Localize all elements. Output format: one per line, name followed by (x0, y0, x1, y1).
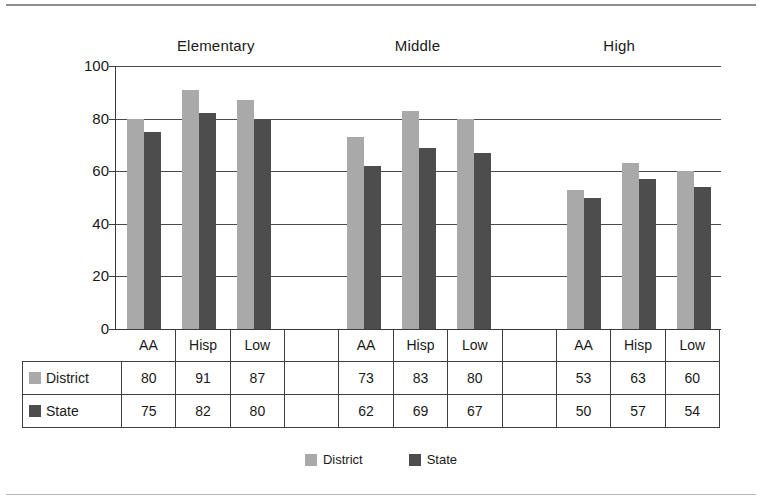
table-header-row: AAHispLowAAHispLowAAHispLow (23, 329, 720, 362)
table-cell-value: 73 (339, 362, 393, 395)
bar-pair (336, 66, 391, 329)
state-swatch (29, 405, 41, 417)
table-row-label-text: State (46, 403, 79, 419)
data-table: AAHispLowAAHispLowAAHispLowDistrict80918… (22, 329, 720, 428)
table-row: District809187738380536360 (23, 362, 720, 395)
district-swatch (29, 372, 41, 384)
bar-state (144, 132, 161, 329)
bar-slot-aa (556, 66, 611, 329)
table-header-spacer-4 (285, 329, 339, 362)
bar-district (182, 90, 199, 329)
bar-slot-spacer (281, 66, 336, 329)
bar-slot-low (226, 66, 281, 329)
table-header-hisp-2: Hisp (176, 329, 230, 362)
table-header-aa-5: AA (339, 329, 393, 362)
bar-slot-hisp (611, 66, 666, 329)
plot-area (115, 66, 720, 329)
y-tick-80: 80 (61, 110, 109, 127)
bar-district (402, 111, 419, 329)
table-header-low-3: Low (230, 329, 284, 362)
table-row-label-state: State (23, 395, 122, 428)
y-tick-mark-80 (109, 119, 116, 120)
table-cell-value: 82 (176, 395, 230, 428)
bar-slot-aa (336, 66, 391, 329)
bar-state (419, 148, 436, 329)
table-cell-value: 80 (122, 362, 176, 395)
table-cell-spacer (502, 362, 556, 395)
table-cell-spacer (285, 395, 339, 428)
table-header-low-11: Low (665, 329, 719, 362)
table-cell-value: 50 (556, 395, 610, 428)
table-row-label-text: District (46, 370, 89, 386)
bar-slot-spacer (501, 66, 556, 329)
legend-item-district: District (305, 452, 363, 467)
bar-pair (391, 66, 446, 329)
table-cell-value: 67 (448, 395, 502, 428)
bar-state (199, 113, 216, 329)
bar-pair (116, 66, 171, 329)
y-tick-20: 20 (61, 267, 109, 284)
legend-label: District (323, 452, 363, 467)
bar-slot-hisp (391, 66, 446, 329)
table-cell-value: 91 (176, 362, 230, 395)
legend-swatch-state (409, 454, 421, 466)
group-header-middle: Middle (317, 34, 519, 58)
table-cell-value: 53 (556, 362, 610, 395)
bar-district (457, 119, 474, 329)
y-tick-100: 100 (61, 57, 109, 74)
table-header-hisp-6: Hisp (393, 329, 447, 362)
group-header-high: High (518, 34, 720, 58)
table-cell-value: 54 (665, 395, 719, 428)
y-tick-mark-60 (109, 171, 116, 172)
y-tick-mark-20 (109, 276, 116, 277)
bar-state (474, 153, 491, 329)
y-tick-40: 40 (61, 215, 109, 232)
table-cell-value: 87 (230, 362, 284, 395)
group-header-band: ElementaryMiddleHigh (115, 34, 720, 58)
y-tick-mark-100 (109, 66, 116, 67)
bar-pair (556, 66, 611, 329)
bar-slot-low (666, 66, 721, 329)
legend-swatch-district (305, 454, 317, 466)
bar-slot-aa (116, 66, 171, 329)
table-cell-value: 57 (611, 395, 665, 428)
table-cell-value: 62 (339, 395, 393, 428)
y-tick-mark-40 (109, 224, 116, 225)
bar-district (622, 163, 639, 329)
bar-pair (171, 66, 226, 329)
legend-item-state: State (409, 452, 457, 467)
table-cell-spacer (285, 362, 339, 395)
table-cell-value: 83 (393, 362, 447, 395)
table-header-hisp-10: Hisp (611, 329, 665, 362)
bar-state (364, 166, 381, 329)
legend-label: State (427, 452, 457, 467)
table-cell-value: 75 (122, 395, 176, 428)
table-cell-value: 60 (665, 362, 719, 395)
table-cell-spacer (502, 395, 556, 428)
bar-state (694, 187, 711, 329)
bar-slot-low (446, 66, 501, 329)
table-header-spacer-8 (502, 329, 556, 362)
bar-slot-hisp (171, 66, 226, 329)
y-axis-tick-labels: 020406080100 (55, 66, 109, 329)
bar-district (567, 190, 584, 329)
bar-state (639, 179, 656, 329)
y-tick-60: 60 (61, 162, 109, 179)
bar-pair (666, 66, 721, 329)
bar-district (677, 171, 694, 329)
bar-district (347, 137, 364, 329)
bar-pair (226, 66, 281, 329)
bar-pair (446, 66, 501, 329)
chart-legend: DistrictState (0, 452, 762, 467)
bar-district (237, 100, 254, 329)
grouped-bar-chart-figure: ElementaryMiddleHigh 020406080100 AAHisp… (0, 0, 762, 500)
bar-state (584, 198, 601, 330)
group-header-elementary: Elementary (115, 34, 317, 58)
bar-pair (611, 66, 666, 329)
table-header-low-7: Low (448, 329, 502, 362)
bar-district (127, 119, 144, 329)
table-header-corner (23, 329, 122, 362)
table-row: State758280626967505754 (23, 395, 720, 428)
bars-layer (116, 66, 721, 329)
table-header-aa-9: AA (556, 329, 610, 362)
